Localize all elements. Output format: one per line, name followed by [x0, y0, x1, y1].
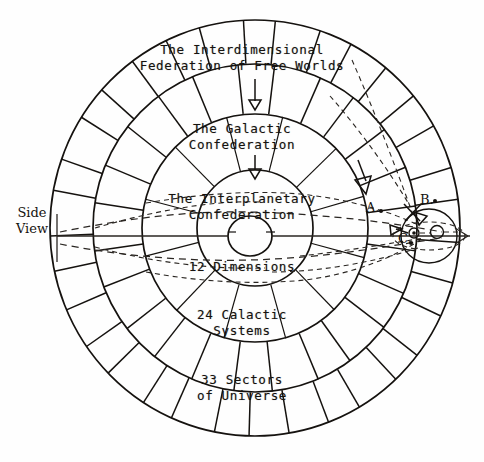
sector-divider [154, 318, 184, 357]
marker-b-label: B. [420, 192, 434, 207]
arrow-galactic-to-interplanetary [249, 155, 261, 179]
sector-divider [411, 272, 452, 284]
sector-divider [95, 244, 144, 251]
sector-divider [54, 262, 96, 271]
side-view-line-2: View [8, 221, 56, 237]
sector-divider [324, 97, 354, 136]
sector-divider [313, 381, 328, 422]
label-line-1: The Galactic [189, 121, 295, 137]
label-galactic-confederation: The Galactic Confederation [189, 121, 295, 153]
label-12-dimensions: 12 Dimensions [189, 259, 295, 275]
label-side-view: Side View [8, 205, 56, 238]
sector-divider [158, 96, 187, 136]
label-line-2: Confederation [189, 137, 295, 153]
label-line-2: of Universe [197, 388, 287, 404]
sector-divider [127, 298, 166, 328]
arrow-federation-to-galactic [249, 79, 261, 110]
sector-divider [105, 165, 150, 184]
label-line-2: Confederation [168, 207, 315, 223]
sector-divider [311, 243, 364, 257]
sector-divider [128, 127, 167, 158]
sector-divider [171, 378, 189, 418]
sector-divider [104, 269, 150, 287]
sector-divider [311, 196, 364, 211]
sector-divider [62, 159, 103, 173]
sector-divider [108, 343, 139, 373]
sector-divider [192, 76, 211, 122]
sector-divider [102, 90, 134, 119]
label-interdimensional-federation: The Interdimensional Federation of Free … [140, 42, 345, 74]
sector-divider [383, 329, 417, 356]
sector-divider [366, 348, 396, 380]
marker-c-label: C. [398, 231, 412, 246]
sector-divider [145, 242, 198, 256]
sector-divider [358, 68, 385, 102]
label-line-2: Federation of Free Worlds [140, 58, 345, 74]
arrow-interplanetary-to-detail [355, 160, 371, 194]
sector-divider [297, 148, 337, 187]
label-line-1: 24 Calactic [197, 307, 287, 323]
sector-divider [95, 203, 143, 211]
sector-divider [143, 366, 166, 403]
label-line-1: The Interdimensional [140, 42, 345, 58]
sector-divider [86, 322, 121, 347]
sector-divider [338, 369, 360, 407]
diagram-canvas: The Interdimensional Federation of Free … [0, 0, 484, 462]
side-view-line-1: Side [8, 205, 56, 221]
label-line-1: 33 Sectors [197, 372, 287, 388]
sector-divider [177, 270, 215, 310]
label-line-2: Systems [197, 323, 287, 339]
sector-divider [81, 117, 117, 140]
sector-divider [301, 78, 321, 123]
sector-divider [53, 190, 95, 198]
sector-divider [345, 297, 384, 327]
label-interplanetary-confederation: The Interplanetary Confederation [168, 191, 315, 223]
sector-divider [299, 334, 318, 380]
sector-divider [396, 126, 433, 147]
label-24-galactic-systems: 24 Calactic Systems [197, 307, 287, 339]
sector-divider [410, 168, 451, 181]
sector-divider [380, 96, 413, 124]
sector-divider [321, 321, 350, 361]
label-line-1: The Interplanetary [168, 191, 315, 207]
marker-a-label: A. [366, 200, 380, 215]
sector-divider [359, 274, 404, 294]
sector-divider [67, 293, 107, 310]
sector-divider [402, 298, 441, 316]
label-33-sectors-of-universe: 33 Sectors of Universe [197, 372, 287, 404]
sector-divider [345, 129, 384, 159]
